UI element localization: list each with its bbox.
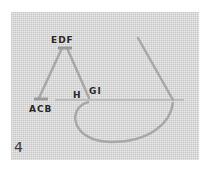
- stitch-right-diagonal: [138, 38, 173, 100]
- stitch-loop: [75, 102, 173, 142]
- embroidery-photo: EDF ACB H GI 4: [11, 12, 199, 160]
- stitch-left-leg: [39, 48, 62, 98]
- stitch-diagram: [11, 12, 199, 160]
- label-gi: GI: [89, 86, 102, 96]
- label-acb: ACB: [29, 104, 52, 114]
- label-edf: EDF: [51, 35, 74, 45]
- label-h: H: [73, 90, 82, 100]
- step-number: 4: [14, 139, 23, 155]
